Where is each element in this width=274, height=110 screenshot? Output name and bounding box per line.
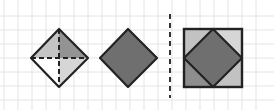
square-with-inscribed-diamond: [184, 29, 242, 87]
diagram-svg: [0, 0, 274, 110]
split-diamond: [31, 29, 88, 87]
solid-diamond: [100, 29, 157, 87]
solid-diamond-shape: [100, 29, 157, 87]
diagram-canvas: [0, 0, 274, 110]
